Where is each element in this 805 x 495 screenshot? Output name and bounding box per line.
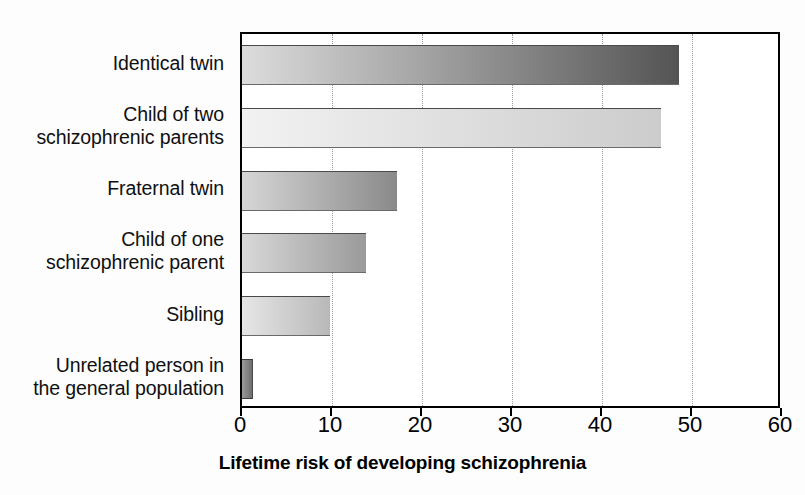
gridline-30 xyxy=(512,34,513,406)
x-tick-label: 60 xyxy=(768,412,792,438)
x-axis-title: Lifetime risk of developing schizophreni… xyxy=(0,452,805,474)
gridline-40 xyxy=(602,34,603,406)
bar xyxy=(242,45,679,85)
bar-chart: Identical twinChild of two schizophrenic… xyxy=(0,0,805,495)
bar xyxy=(242,233,366,273)
gridline-50 xyxy=(692,34,693,406)
x-tick-label: 50 xyxy=(678,412,702,438)
x-tick-label: 30 xyxy=(498,412,522,438)
category-axis: Identical twinChild of two schizophrenic… xyxy=(0,32,232,408)
x-axis-tick-labels: 0102030405060 xyxy=(180,412,805,444)
category-label: Unrelated person in the general populati… xyxy=(33,354,224,400)
bar xyxy=(242,171,397,211)
bar xyxy=(242,359,253,399)
bar xyxy=(242,108,661,148)
x-tick-label: 40 xyxy=(588,412,612,438)
x-tick-label: 20 xyxy=(408,412,432,438)
plot-inner xyxy=(242,34,778,406)
category-label: Child of one schizophrenic parent xyxy=(46,228,224,274)
category-label: Identical twin xyxy=(113,52,224,75)
bar xyxy=(242,296,330,336)
category-label: Fraternal twin xyxy=(107,177,224,200)
x-tick-label: 10 xyxy=(318,412,342,438)
plot-area xyxy=(240,32,780,408)
x-tick-label: 0 xyxy=(234,412,246,438)
gridline-20 xyxy=(422,34,423,406)
category-label: Child of two schizophrenic parents xyxy=(36,103,224,149)
category-label: Sibling xyxy=(166,303,224,326)
gridline-10 xyxy=(332,34,333,406)
